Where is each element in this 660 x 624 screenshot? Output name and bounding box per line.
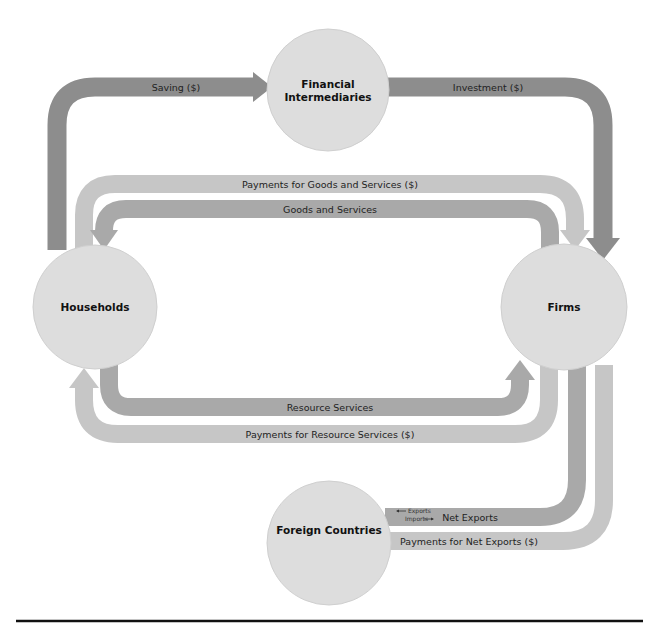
payments-resource-arrowhead-icon [69, 368, 99, 388]
goods-services-label: Goods and Services [283, 204, 377, 215]
foreign-countries-label: Foreign Countries [276, 524, 382, 536]
resource-services-label: Resource Services [287, 402, 374, 413]
households-label: Households [61, 301, 130, 313]
resource-services-flow: Resource Services [109, 360, 535, 413]
node-households: Households [33, 245, 157, 369]
payments-net-exports-label: Payments for Net Exports ($) [400, 536, 538, 547]
financial-intermediaries-label-line1: Financial [301, 78, 354, 90]
payments-resource-services-label: Payments for Resource Services ($) [246, 429, 415, 440]
firms-label: Firms [547, 301, 580, 313]
goods-services-flow: Goods and Services [90, 204, 550, 250]
exports-label: Exports [408, 507, 431, 515]
saving-label: Saving ($) [152, 82, 201, 93]
resource-arrowhead-icon [505, 360, 535, 380]
node-firms: Firms [501, 244, 627, 370]
payments-goods-services-label: Payments for Goods and Services ($) [242, 179, 418, 190]
node-foreign-countries: Foreign Countries [267, 481, 391, 605]
financial-intermediaries-label-line2: Intermediaries [284, 91, 371, 103]
circular-flow-diagram: Saving ($) Investment ($) Payments for G… [0, 0, 660, 624]
node-financial-intermediaries: Financial Intermediaries [267, 29, 389, 151]
investment-label: Investment ($) [453, 82, 523, 93]
net-exports-label: Net Exports [442, 512, 498, 523]
